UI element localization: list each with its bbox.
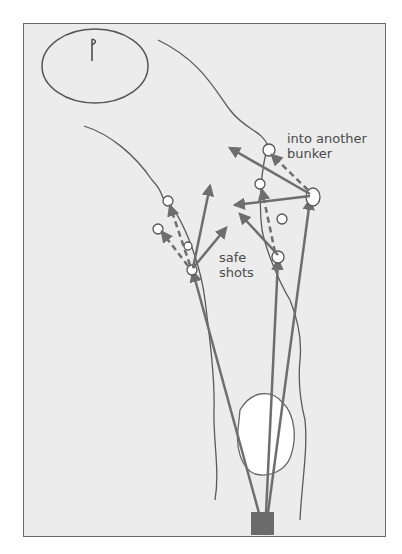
flag-icon (92, 39, 96, 61)
label-safe-line1: safe (219, 250, 254, 265)
label-into-another-bunker: into another bunker (287, 131, 367, 161)
label-safe-shots: safe shots (219, 250, 254, 280)
label-risky-line1: into another (287, 131, 367, 146)
golf-hole-diagram (0, 0, 402, 554)
label-risky-line2: bunker (287, 146, 367, 161)
tee-box (251, 512, 274, 535)
label-safe-line2: shots (219, 265, 254, 280)
